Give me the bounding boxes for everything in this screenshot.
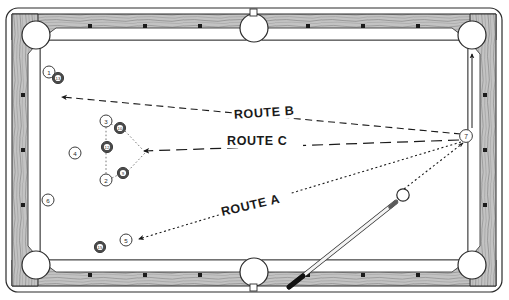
pocket-bottom-center: [240, 258, 268, 286]
ball-15-number: 15: [98, 245, 103, 250]
ball-4-number: 4: [73, 150, 77, 157]
cushion-top-left: [40, 28, 246, 40]
ball-6[interactable]: 6: [42, 194, 54, 206]
cushion-bottom-right: [262, 260, 468, 272]
sight-dot-left: [21, 148, 25, 152]
sight-dot-bottom: [88, 273, 92, 277]
ball-15[interactable]: 15: [94, 241, 105, 252]
pocket-bottom-right: [458, 251, 486, 279]
ball-2[interactable]: 2: [100, 174, 112, 186]
sight-dot-left: [21, 203, 25, 207]
sight-dot-bottom: [143, 273, 147, 277]
cushion-right: [468, 40, 480, 260]
sight-dot-right: [483, 148, 487, 152]
sight-dot-top: [361, 24, 365, 28]
sight-dot-right: [483, 203, 487, 207]
route-c-label: ROUTE C: [227, 134, 287, 148]
cushion-top-right: [262, 28, 468, 40]
ball-1-number: 1: [47, 69, 51, 76]
ball-12-number: 12: [105, 145, 110, 150]
ball-4[interactable]: 4: [69, 147, 81, 159]
sight-dot-top: [198, 24, 202, 28]
ball-3[interactable]: 3: [100, 115, 112, 127]
pocket-notch-bottom: [250, 284, 257, 291]
pocket-top-center: [240, 14, 268, 42]
ball-13-number: 13: [56, 76, 61, 81]
ball-9[interactable]: 9: [117, 167, 128, 178]
sight-dot-top: [306, 24, 310, 28]
ball-12[interactable]: 12: [101, 141, 112, 152]
ball-7[interactable]: 7: [460, 130, 473, 143]
sight-dot-left: [21, 93, 25, 97]
pocket-top-left: [22, 21, 50, 49]
ball-2-number: 2: [104, 177, 108, 184]
ball-6-number: 6: [46, 197, 50, 204]
cue-ball[interactable]: [397, 189, 409, 201]
sight-dot-top: [143, 24, 147, 28]
pocket-bottom-left: [22, 251, 50, 279]
ball-13[interactable]: 13: [52, 72, 63, 83]
ball-10-number: 10: [118, 126, 123, 131]
sight-dot-top: [416, 24, 420, 28]
ball-3-number: 3: [104, 118, 108, 125]
pocket-top-right: [458, 21, 486, 49]
sight-dot-top: [88, 24, 92, 28]
ball-7-number: 7: [464, 133, 468, 140]
sight-dot-right: [483, 93, 487, 97]
sight-dot-bottom: [416, 273, 420, 277]
ball-10[interactable]: 10: [114, 122, 125, 133]
pool-table-diagram: 1 13 3 10: [0, 0, 509, 300]
sight-dot-bottom: [361, 273, 365, 277]
cue-ball-circle[interactable]: [397, 189, 409, 201]
ball-5[interactable]: 5: [120, 234, 132, 246]
sight-dot-bottom: [198, 273, 202, 277]
pocket-notch-top: [250, 9, 257, 16]
ball-5-number: 5: [124, 237, 128, 244]
table-svg: 1 13 3 10: [0, 0, 509, 300]
cushion-bottom-left: [40, 260, 246, 272]
cushion-left: [28, 40, 40, 260]
